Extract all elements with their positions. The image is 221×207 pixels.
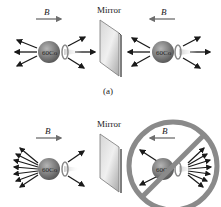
field-arrow-left-a: B <box>36 7 61 19</box>
nucleus-label: 60Co <box>156 49 172 57</box>
field-label: B <box>162 126 168 136</box>
cobalt-nucleus-left-b: 60Co <box>14 148 84 187</box>
mirror-label-a: Mirror <box>97 5 121 15</box>
forbidden-icon <box>129 122 217 207</box>
mirror-a <box>100 20 119 76</box>
mirror-b <box>100 134 119 192</box>
cobalt-nucleus-right-a: 60Co <box>128 37 210 68</box>
caption-a: (a) <box>103 86 113 96</box>
panel-a: B Mirror B 60Co <box>15 5 210 96</box>
mirror-label-b: Mirror <box>97 119 121 129</box>
nucleus-label: 60Co <box>42 49 58 57</box>
nucleus-label: 60Co <box>42 166 58 174</box>
panel-b: B Mirror B 60Co <box>14 119 217 207</box>
field-arrow-right-a: B <box>150 7 175 19</box>
cobalt-nucleus-right-b: 60Co <box>140 148 211 187</box>
parity-violation-diagram: B Mirror B 60Co <box>0 0 221 207</box>
field-arrow-left-b: B <box>36 126 61 138</box>
field-label: B <box>44 7 50 17</box>
field-label: B <box>45 126 51 136</box>
cobalt-nucleus-left-a: 60Co <box>15 37 95 68</box>
field-label: B <box>161 7 167 17</box>
